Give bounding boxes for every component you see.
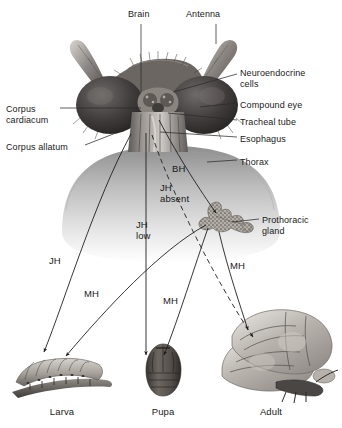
mh-adult-arrow [219,232,248,330]
esophagus-leader [160,132,237,137]
figure-canvas: BrainAntennaNeuroendocrine cellsCompound… [0,0,342,428]
prothoracic-leader [232,219,259,222]
thorax-leader [207,160,237,162]
hormone-label-mh-adult: MH [230,260,245,271]
corpus-allatum-leader [85,131,121,145]
hormone-label-jh: JH [49,255,61,266]
annotation-layer [0,0,342,428]
label-thorax: Thorax [240,157,269,168]
label-compound-eye: Compound eye [240,100,302,111]
stage-label-larva: Larva [50,407,74,418]
neuroendocrine-leader [173,74,237,92]
label-tracheal-tube: Tracheal tube [240,117,296,128]
label-esophagus: Esophagus [240,134,286,145]
stage-label-pupa: Pupa [152,407,175,418]
hormone-label-bh: BH [172,163,185,174]
label-brain: Brain [128,9,150,20]
mh-pupa-arrow [164,228,208,355]
hormone-label-mh-larva: MH [84,288,99,299]
hormone-label-mh-pupa: MH [163,295,178,306]
compound-eye-leader [200,103,237,107]
label-corpus-allatum: Corpus allatum [6,142,68,153]
label-corpus-cardiacum: Corpus cardiacum [6,104,48,125]
jh-absent-arrow [152,135,253,337]
hormone-label-jh-low: JH low [136,219,151,241]
label-antenna: Antenna [186,9,220,20]
jh-arrow [44,134,131,352]
stage-label-adult: Adult [260,407,282,418]
hormone-label-jh-absent: JH absent [160,182,189,204]
tracheal-tube-leader [168,113,237,120]
label-neuroendocrine: Neuroendocrine cells [240,68,305,89]
label-prothoracic-gland: Prothoracic gland [262,215,309,236]
